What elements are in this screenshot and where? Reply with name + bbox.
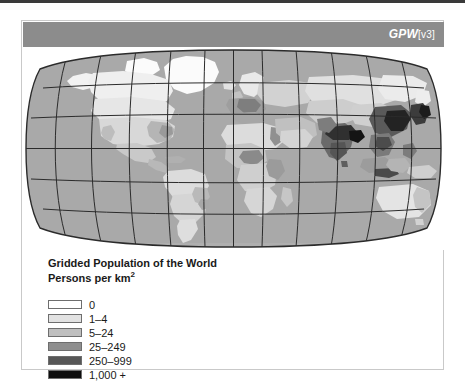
- map-legend: Gridded Population of the World Persons …: [48, 256, 348, 382]
- product-version: [v3]: [418, 29, 435, 40]
- figure-title-bar: GPW[v3]: [23, 22, 444, 47]
- land-tasmania: [415, 219, 424, 225]
- figure-panel: GPW[v3]: [21, 20, 444, 370]
- world-map-svg: [23, 47, 444, 250]
- legend-swatch-2: [48, 328, 82, 337]
- product-abbrev: GPW: [389, 27, 418, 41]
- land-russia-west: [257, 80, 315, 107]
- legend-row: 25–249: [48, 340, 348, 353]
- legend-swatch-0: [48, 300, 82, 309]
- legend-row: 1,000 +: [48, 368, 348, 381]
- legend-swatch-5: [48, 370, 82, 379]
- legend-row: 0: [48, 298, 348, 311]
- legend-swatch-3: [48, 342, 82, 351]
- legend-label-0: 0: [89, 299, 95, 311]
- legend-label-4: 250–999: [89, 355, 132, 367]
- figure-page: GPW[v3]: [0, 0, 465, 388]
- legend-label-3: 25–249: [89, 341, 126, 353]
- legend-units-text: Persons per km: [48, 272, 131, 284]
- legend-title-line1: Gridded Population of the World: [48, 256, 348, 271]
- legend-label-1: 1–4: [89, 313, 107, 325]
- land-new-zealand: [436, 207, 444, 223]
- legend-title-line2: Persons per km2: [48, 271, 348, 286]
- legend-row: 5–24: [48, 326, 348, 339]
- legend-row: 250–999: [48, 354, 348, 367]
- legend-swatch-1: [48, 314, 82, 323]
- legend-row: 1–4: [48, 312, 348, 325]
- legend-label-2: 5–24: [89, 327, 113, 339]
- land-sri-lanka: [341, 161, 348, 167]
- page-top-rule: [0, 0, 465, 3]
- product-label: GPW[v3]: [389, 27, 435, 41]
- legend-units-superscript: 2: [131, 270, 135, 279]
- legend-label-5: 1,000 +: [89, 369, 126, 381]
- legend-class-list: 0 1–4 5–24 25–249 250–999: [48, 298, 348, 381]
- world-map: [23, 47, 444, 250]
- legend-swatch-4: [48, 356, 82, 365]
